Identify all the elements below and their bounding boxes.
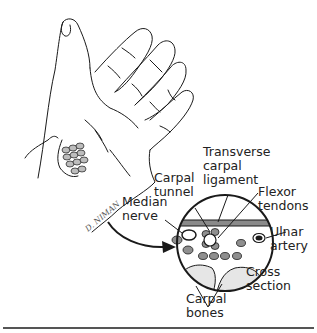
svg-text:Carpal: Carpal [186,291,227,306]
label-cross-section: Cross section [246,264,291,293]
carpal-tunnel-diagram: D. NIMAN [0,0,317,333]
hand-illustration [25,19,193,232]
svg-text:bones: bones [186,305,224,320]
pointer-arrow [108,222,165,247]
svg-text:Transverse: Transverse [202,144,271,159]
label-ulnar-artery: Ulnar artery [270,224,309,253]
transverse-carpal-ligament-band [170,220,280,226]
svg-text:Ulnar: Ulnar [270,224,304,239]
bottom-rule [3,327,314,329]
label-carpal-bones: Carpal bones [186,291,227,320]
median-nerve-shape [182,230,196,240]
svg-text:Median: Median [122,194,167,209]
label-median-nerve: Median nerve [122,194,167,223]
svg-text:tendons: tendons [258,198,309,213]
svg-text:ligament: ligament [203,172,258,187]
svg-text:Cross: Cross [246,264,280,279]
svg-text:Carpal: Carpal [154,170,195,185]
label-transverse-carpal-ligament: Transverse carpal ligament [202,144,271,187]
svg-text:artery: artery [270,238,309,253]
artist-signature: D. NIMAN [83,199,123,234]
label-flexor-tendons: Flexor tendons [258,184,309,213]
wrist-carpal-bones-sketch [62,143,88,174]
svg-text:Flexor: Flexor [258,184,297,199]
svg-text:nerve: nerve [122,208,158,223]
svg-text:carpal: carpal [203,158,242,173]
svg-text:section: section [246,278,291,293]
